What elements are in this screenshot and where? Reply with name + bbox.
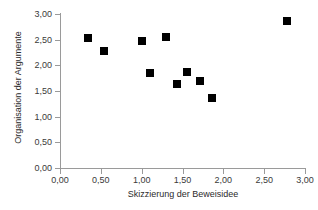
data-point-marker (208, 94, 216, 102)
y-axis-title: Organisation der Argumente (14, 8, 23, 168)
x-tick-mark (223, 169, 224, 174)
x-tick-label: 2,50 (244, 176, 284, 185)
x-tick-label: 3,00 (285, 176, 318, 185)
x-tick-label: 0,00 (40, 176, 80, 185)
x-tick-label: 1,50 (163, 176, 203, 185)
data-point-marker (162, 33, 170, 41)
y-tick-label: 2,50 (34, 36, 52, 45)
x-tick-label: 1,00 (122, 176, 162, 185)
x-axis-title: Skizzierung der Beweisidee (60, 190, 306, 199)
y-tick-label: 1,50 (34, 87, 52, 96)
data-point-marker (183, 68, 191, 76)
x-tick-mark (183, 169, 184, 174)
x-tick-mark (264, 169, 265, 174)
data-point-marker (173, 80, 181, 88)
scatter-chart: 0,000,501,001,502,002,503,00 0,000,501,0… (0, 0, 318, 210)
data-point-marker (138, 37, 146, 45)
plot-area (60, 14, 305, 168)
data-point-marker (283, 17, 291, 25)
x-tick-label: 2,00 (203, 176, 243, 185)
data-point-marker (100, 47, 108, 55)
x-tick-label: 0,50 (81, 176, 121, 185)
data-point-marker (146, 69, 154, 77)
y-tick-label: 0,50 (34, 138, 52, 147)
x-tick-mark (305, 169, 306, 174)
x-tick-mark (101, 169, 102, 174)
y-tick-label: 1,00 (34, 113, 52, 122)
data-point-marker (84, 34, 92, 42)
data-point-marker (196, 77, 204, 85)
y-tick-label: 3,00 (34, 10, 52, 19)
y-tick-label: 2,00 (34, 61, 52, 70)
x-tick-mark (142, 169, 143, 174)
x-tick-mark (60, 169, 61, 174)
y-tick-label: 0,00 (34, 164, 52, 173)
